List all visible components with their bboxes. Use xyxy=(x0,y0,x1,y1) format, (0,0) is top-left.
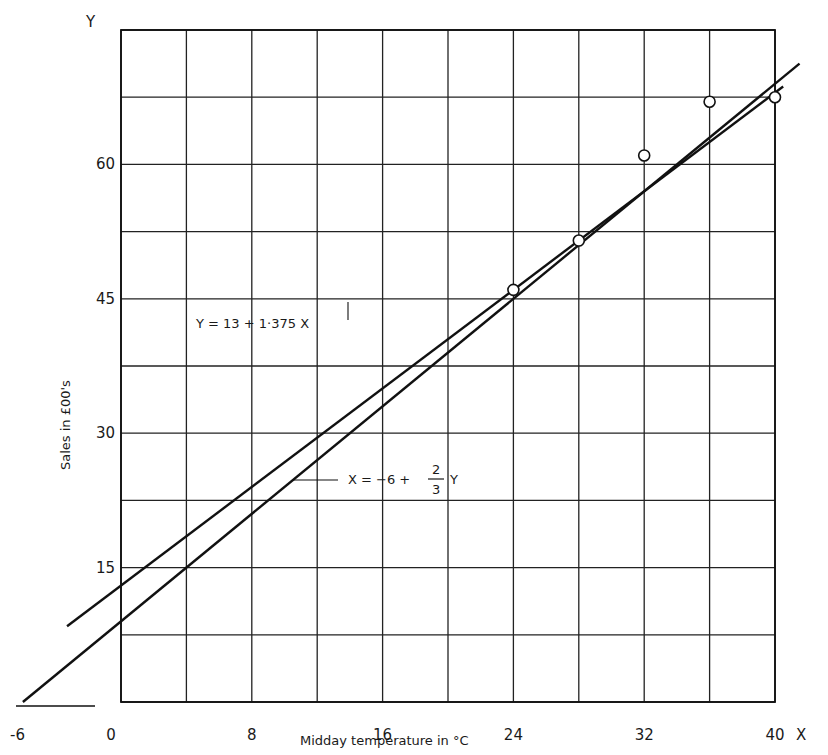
chart-canvas: Y X Midday temperature in °C Sales in £0… xyxy=(0,0,828,755)
x-tick-label: 40 xyxy=(765,726,784,744)
data-point xyxy=(573,235,584,246)
regression-lines xyxy=(23,64,800,702)
y-tick-label: 15 xyxy=(96,559,115,577)
y-tick-label: 60 xyxy=(96,155,115,173)
data-point xyxy=(639,150,650,161)
equation-x-on-y-lhs: X = −6 + xyxy=(348,472,410,487)
regression-chart: Y X Midday temperature in °C Sales in £0… xyxy=(0,0,828,755)
y-tick-label: 45 xyxy=(96,290,115,308)
regression-line-x-on-y xyxy=(23,64,800,702)
equation-y-on-x: Y = 13 + 1·375 X xyxy=(195,316,309,331)
x-negative-tick-label: -6 xyxy=(10,726,25,744)
x-tick-label: 24 xyxy=(504,726,523,744)
equation-x-on-y-rhs: Y xyxy=(449,472,458,487)
x-tick-label: 8 xyxy=(247,726,257,744)
data-point xyxy=(704,96,715,107)
y-axis-letter: Y xyxy=(85,13,96,31)
x-axis-letter: X xyxy=(796,726,806,744)
regression-line-y-on-x xyxy=(67,87,783,627)
equation-x-on-y: X = −6 + 2 3 Y xyxy=(348,462,458,497)
y-tick-label: 30 xyxy=(96,424,115,442)
grid xyxy=(121,30,775,702)
equation-fraction-denominator: 3 xyxy=(432,482,440,497)
data-point xyxy=(508,284,519,295)
x-tick-label: 16 xyxy=(373,726,392,744)
equation-fraction-numerator: 2 xyxy=(432,462,440,477)
axes xyxy=(16,30,775,706)
data-point xyxy=(770,92,781,103)
x-tick-label: 32 xyxy=(635,726,654,744)
x-tick-label: 0 xyxy=(106,726,116,744)
y-axis-label: Sales in £00's xyxy=(58,380,73,470)
labels: Y X Midday temperature in °C Sales in £0… xyxy=(10,13,806,748)
